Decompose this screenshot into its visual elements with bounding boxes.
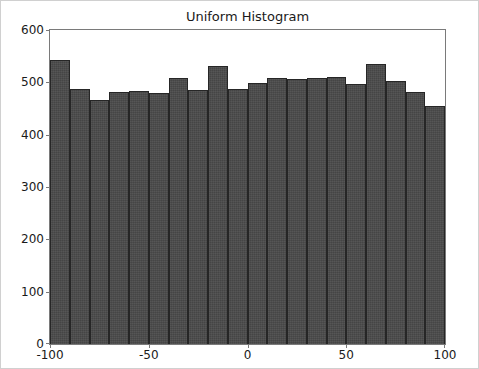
x-tick-label: 50 <box>316 349 376 361</box>
histogram-bar <box>208 66 228 344</box>
x-tick-mark <box>248 344 249 348</box>
histogram-bar <box>287 79 307 344</box>
x-tick-label: -100 <box>20 349 80 361</box>
y-tick-label: 400 <box>4 129 44 141</box>
histogram-bar <box>109 92 129 344</box>
bar-series <box>50 30 445 344</box>
histogram-bar <box>90 100 110 344</box>
x-tick-mark <box>346 344 347 348</box>
y-tick-label: 100 <box>4 286 44 298</box>
histogram-bar <box>188 90 208 344</box>
x-tick-mark <box>149 344 150 348</box>
y-tick-label: 500 <box>4 76 44 88</box>
histogram-bar <box>70 89 90 344</box>
histogram-bar <box>149 93 169 344</box>
histogram-figure: Uniform Histogram 0100200300400500600 -1… <box>0 0 479 369</box>
histogram-bar <box>425 106 445 344</box>
histogram-bar <box>366 64 386 344</box>
histogram-bar <box>346 84 366 344</box>
histogram-bar <box>169 78 189 344</box>
histogram-bar <box>248 83 268 344</box>
x-tick-label: 100 <box>415 349 475 361</box>
x-tick-mark <box>50 344 51 348</box>
page-title: Uniform Histogram <box>49 9 446 25</box>
histogram-bar <box>50 60 70 344</box>
histogram-bar <box>327 77 347 344</box>
y-tick-label: 0 <box>4 338 44 350</box>
y-tick-label: 300 <box>4 181 44 193</box>
y-tick-label: 600 <box>4 24 44 36</box>
histogram-bar <box>307 78 327 344</box>
x-tick-label: -50 <box>119 349 179 361</box>
x-tick-label: 0 <box>218 349 278 361</box>
y-tick-label: 200 <box>4 233 44 245</box>
histogram-bar <box>129 91 149 344</box>
histogram-bar <box>228 89 248 344</box>
histogram-bar <box>386 81 406 344</box>
plot-area: 0100200300400500600 -100-50050100 <box>49 29 446 345</box>
histogram-bar <box>406 92 426 344</box>
x-tick-mark <box>444 344 445 348</box>
histogram-bar <box>267 78 287 344</box>
